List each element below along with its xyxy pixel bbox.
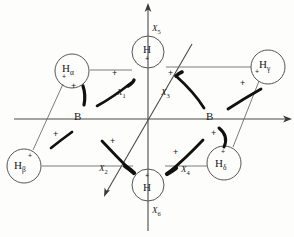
atom-label-hydrogen-bottom: H: [143, 182, 151, 193]
charge-hydrogen-alpha: +: [62, 73, 66, 80]
coord-label-x1: X1: [117, 88, 126, 99]
atom-label-boron-right: B: [206, 111, 213, 122]
coord-label-x6: X6: [152, 206, 161, 217]
plus-sign-x2: +: [110, 137, 115, 146]
atom-label-hydrogen-beta: Hβ: [14, 160, 26, 174]
charge-hydrogen-delta: +: [221, 148, 225, 155]
plus-sign-x1: +: [112, 69, 117, 78]
coord-label-x4: X4: [181, 165, 190, 176]
charge-hydrogen-gamma: +: [255, 68, 259, 75]
arc-x3: [176, 76, 204, 108]
plus-sign-alpha: +: [71, 82, 76, 91]
plus-sign-gamma: +: [240, 79, 245, 88]
diagonal-axis-arrowhead: [104, 187, 110, 197]
arc-alpha: [83, 86, 85, 105]
arc-x1: [97, 83, 131, 106]
atom-label-boron-left: B: [74, 111, 81, 122]
plus-sign-beta: +: [53, 130, 58, 139]
charge-hydrogen-beta: +: [28, 152, 32, 159]
plus-sign-delta: +: [211, 129, 216, 138]
charge-hydrogen-top: +: [145, 55, 149, 62]
plus-sign-x3: +: [168, 69, 173, 78]
diagram-canvas: [0, 0, 294, 237]
plus-sign-x4: +: [173, 148, 178, 157]
arc-x4-head: [167, 168, 176, 174]
diborane-coordinate-diagram: B B H + H + Hα + Hγ + Hβ + Hδ + X1 X2 X3…: [0, 0, 294, 237]
arc-gamma: [228, 89, 261, 109]
coord-label-x3: X3: [161, 88, 170, 99]
arc-delta: [219, 128, 226, 147]
coord-label-x2: X2: [99, 164, 108, 175]
atom-label-hydrogen-top: H: [143, 44, 151, 55]
bond-halpha-hbeta: [33, 84, 63, 150]
arc-x2-head: [125, 166, 134, 173]
atom-label-hydrogen-delta: Hδ: [215, 158, 227, 172]
atom-label-hydrogen-gamma: Hγ: [259, 59, 270, 73]
arc-x3-tail: [176, 72, 182, 76]
charge-hydrogen-bottom: +: [145, 172, 149, 179]
coord-label-x5: X5: [152, 24, 161, 35]
